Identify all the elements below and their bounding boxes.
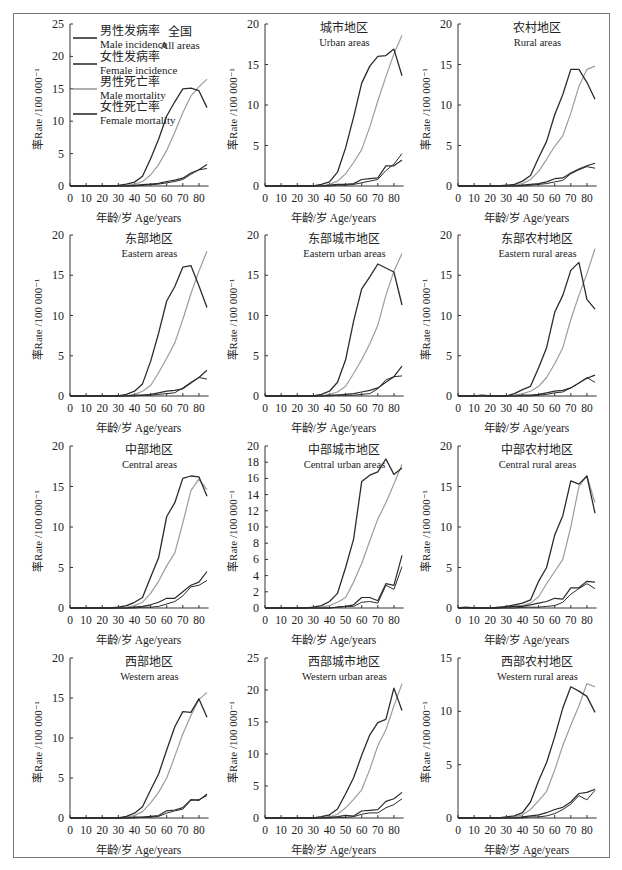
series-line-male-mortality: [70, 251, 207, 396]
panel-title-zh: 西部农村地区: [501, 654, 573, 669]
panel-title-en: Central rural areas: [499, 459, 577, 470]
x-tick-label: 30: [113, 824, 125, 836]
y-tick-label: 10: [247, 309, 259, 323]
y-tick-label: 15: [440, 58, 452, 72]
x-tick-label: 70: [372, 614, 384, 626]
x-tick-label: 80: [581, 824, 593, 836]
series-line-female-incidence: [265, 555, 402, 608]
x-tick-label: 70: [177, 614, 189, 626]
legend-label-en: Male incidence: [100, 38, 168, 50]
x-tick-label: 60: [161, 824, 173, 836]
series-line-male-incidence: [265, 688, 402, 818]
series-line-male-mortality: [458, 66, 595, 186]
series-line-female-mortality: [458, 167, 595, 186]
x-tick-label: 0: [262, 192, 268, 204]
x-tick-label: 80: [388, 192, 400, 204]
series-line-male-incidence: [265, 459, 402, 608]
x-tick-label: 70: [565, 402, 577, 414]
x-tick-label: 10: [80, 824, 92, 836]
x-tick-label: 60: [161, 402, 173, 414]
chart-panel: 0510152001020304050607080年龄/岁 Age/years率…: [419, 228, 597, 435]
x-tick-label: 30: [113, 614, 125, 626]
y-tick-label: 0: [446, 389, 452, 403]
legend-label-en: Female mortality: [100, 114, 176, 126]
x-tick-label: 40: [129, 614, 141, 626]
y-tick-label: 0: [58, 179, 64, 193]
x-tick-label: 10: [468, 824, 480, 836]
series-line-male-mortality: [265, 684, 402, 818]
x-tick-label: 0: [455, 614, 461, 626]
y-tick-label: 20: [52, 49, 64, 63]
x-tick-label: 40: [324, 614, 336, 626]
y-tick-label: 5: [446, 139, 452, 153]
series-line-female-incidence: [458, 163, 595, 186]
y-tick-label: 20: [52, 439, 64, 453]
y-tick-label: 10: [440, 309, 452, 323]
series-line-male-mortality: [265, 465, 402, 608]
panel-title-en: Urban areas: [319, 37, 369, 48]
x-tick-label: 50: [533, 192, 545, 204]
panel-title-en: Rural areas: [514, 37, 562, 48]
x-tick-label: 50: [145, 402, 157, 414]
y-tick-label: 15: [52, 480, 64, 494]
series-line-male-incidence: [265, 264, 402, 396]
y-axis-label: 率Rate /100 000⁻¹: [226, 279, 239, 361]
y-tick-label: 15: [247, 715, 259, 729]
x-tick-label: 80: [581, 402, 593, 414]
y-tick-label: 15: [247, 58, 259, 72]
x-tick-label: 50: [340, 824, 352, 836]
chart-panel: 0510152001020304050607080年龄/岁 Age/years率…: [31, 651, 209, 857]
series-line-male-incidence: [458, 262, 595, 396]
panel-title-zh: 东部农村地区: [501, 231, 573, 246]
y-tick-label: 5: [253, 779, 259, 793]
panel-title-zh: 东部城市地区: [308, 231, 380, 246]
x-tick-label: 0: [67, 614, 73, 626]
y-axis-label: 率Rate /100 000⁻¹: [226, 490, 239, 572]
y-tick-label: 20: [52, 228, 64, 242]
x-tick-label: 80: [388, 402, 400, 414]
x-tick-label: 70: [565, 192, 577, 204]
y-tick-label: 4: [253, 569, 259, 583]
x-tick-label: 60: [356, 824, 368, 836]
panel-title-en: Central areas: [122, 459, 177, 470]
y-tick-label: 5: [446, 349, 452, 363]
x-tick-label: 60: [356, 402, 368, 414]
chart-panel: 0246810121416182001020304050607080年龄/岁 A…: [226, 439, 404, 647]
y-tick-label: 16: [247, 471, 259, 485]
x-tick-label: 50: [145, 824, 157, 836]
x-tick-label: 10: [80, 402, 92, 414]
y-axis-label: 率Rate /100 000⁻¹: [419, 68, 432, 150]
x-tick-label: 70: [372, 192, 384, 204]
x-tick-label: 20: [96, 614, 108, 626]
series-line-female-incidence: [458, 789, 595, 818]
y-tick-label: 20: [440, 17, 452, 31]
x-tick-label: 50: [145, 192, 157, 204]
x-tick-label: 30: [308, 614, 320, 626]
x-tick-label: 80: [581, 192, 593, 204]
x-tick-label: 0: [455, 824, 461, 836]
y-axis-label: 率Rate /100 000⁻¹: [31, 701, 44, 783]
x-tick-label: 30: [501, 192, 513, 204]
series-line-male-incidence: [265, 49, 402, 186]
y-tick-label: 10: [52, 520, 64, 534]
y-tick-label: 10: [52, 731, 64, 745]
y-tick-label: 12: [247, 504, 259, 518]
x-tick-label: 30: [501, 824, 513, 836]
legend: 男性发病率Male incidence女性发病率Female incidence…: [73, 23, 177, 126]
x-tick-label: 30: [308, 824, 320, 836]
x-tick-label: 20: [96, 402, 108, 414]
y-tick-label: 0: [253, 389, 259, 403]
x-tick-label: 60: [161, 614, 173, 626]
x-tick-label: 0: [262, 824, 268, 836]
y-tick-label: 0: [253, 811, 259, 825]
x-tick-label: 50: [340, 614, 352, 626]
x-tick-label: 0: [262, 614, 268, 626]
x-tick-label: 30: [308, 402, 320, 414]
x-tick-label: 20: [291, 824, 303, 836]
y-tick-label: 0: [58, 601, 64, 615]
x-tick-label: 10: [275, 192, 287, 204]
x-tick-label: 0: [67, 402, 73, 414]
x-tick-label: 70: [372, 824, 384, 836]
y-tick-label: 5: [58, 771, 64, 785]
y-tick-label: 15: [52, 268, 64, 282]
